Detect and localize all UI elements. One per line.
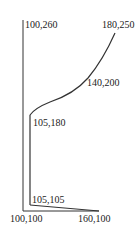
path-lines — [0, 0, 140, 232]
label-180-250: 180,250 — [102, 20, 135, 30]
label-105-105: 105,105 — [32, 195, 65, 205]
inner-slanted-line — [30, 205, 99, 211]
label-100-100: 100,100 — [10, 214, 43, 224]
label-140-200: 140,200 — [87, 78, 120, 88]
label-105-180: 105,180 — [33, 118, 66, 128]
path-diagram: 100,260 180,250 140,200 105,180 105,105 … — [0, 0, 140, 232]
label-160-100: 160,100 — [78, 214, 111, 224]
curve-path — [30, 33, 115, 115]
label-100-260: 100,260 — [25, 20, 58, 30]
